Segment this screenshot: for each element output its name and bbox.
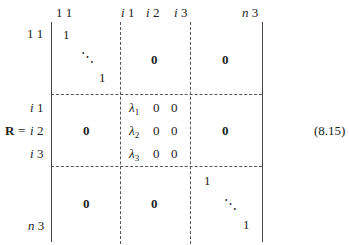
row-label-var: i <box>30 123 34 138</box>
col-header-11: 1 1 <box>56 6 72 19</box>
row-label-num: 3 <box>38 218 45 233</box>
identity-top-dots: ⋱ <box>81 50 94 63</box>
partition-horizontal-1 <box>51 94 262 95</box>
zero-block-top-right: 0 <box>222 53 229 66</box>
lambda-subscript: 2 <box>135 130 140 140</box>
identity-top-last: 1 <box>99 71 106 84</box>
row-label-11: 1 1 <box>27 27 43 40</box>
col-header-var: i <box>121 5 125 20</box>
zero-block-bot-left: 0 <box>83 197 90 210</box>
row-label-n3: n 3 <box>28 219 44 232</box>
col-header-var: i <box>174 5 178 20</box>
cell-r2-c2: 0 <box>153 124 160 137</box>
left-border-line <box>51 22 52 242</box>
cell-r2-c3: 0 <box>171 124 178 137</box>
cell-r3-c3: 0 <box>171 147 178 160</box>
lambda-3: λ3 <box>129 147 139 165</box>
row-label-var: n <box>28 218 35 233</box>
col-header-i1: i 1 <box>121 6 134 19</box>
col-header-var: i <box>146 5 150 20</box>
row-label-num: 2 <box>37 123 44 138</box>
zero-block-mid-left: 0 <box>83 124 90 137</box>
lambda-subscript: 1 <box>135 107 140 117</box>
partition-vertical-1 <box>120 22 121 244</box>
right-border-line <box>262 22 263 242</box>
cell-r1-c3: 0 <box>171 101 178 114</box>
zero-block-top-mid: 0 <box>151 53 158 66</box>
identity-bot-dots: ⋱ <box>224 197 237 210</box>
identity-top-first: 1 <box>63 28 70 41</box>
col-header-n3: n 3 <box>242 6 258 19</box>
col-header-num: 2 <box>153 5 160 20</box>
identity-bot-last: 1 <box>243 218 250 231</box>
cell-r3-c2: 0 <box>153 147 160 160</box>
col-header-num: 3 <box>252 5 259 20</box>
lambda-subscript: 3 <box>135 153 140 163</box>
lambda-2: λ2 <box>129 124 139 142</box>
zero-block-mid-right: 0 <box>222 124 229 137</box>
row-label-i2: i 2 <box>30 124 43 137</box>
row-label-num: 1 <box>37 100 44 115</box>
row-label-var: i <box>30 146 34 161</box>
lambda-1: λ1 <box>129 101 139 119</box>
row-label-i1: i 1 <box>30 101 43 114</box>
row-label-num: 3 <box>37 146 44 161</box>
equation-number: (8.15) <box>314 124 345 137</box>
col-header-i3: i 3 <box>174 6 187 19</box>
row-label-i3: i 3 <box>30 147 43 160</box>
zero-block-bot-mid: 0 <box>151 197 158 210</box>
matrix-symbol: R <box>5 124 14 137</box>
equals-sign: = <box>18 124 25 137</box>
cell-r1-c2: 0 <box>153 101 160 114</box>
identity-bot-first: 1 <box>204 174 211 187</box>
row-label-var: i <box>30 100 34 115</box>
col-header-var: n <box>242 5 249 20</box>
col-header-num: 3 <box>181 5 188 20</box>
partition-vertical-2 <box>190 22 191 244</box>
col-header-num: 1 <box>128 5 135 20</box>
col-header-i2: i 2 <box>146 6 159 19</box>
partition-horizontal-2 <box>51 166 262 167</box>
